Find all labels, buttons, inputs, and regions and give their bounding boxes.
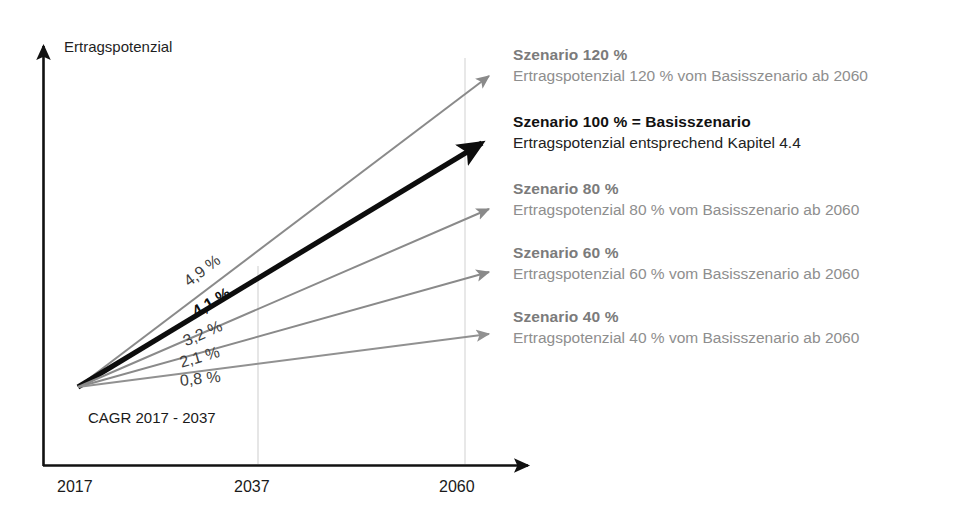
legend-entry-szenario-60: Szenario 60 % Ertragspotenzial 60 % vom … [513, 243, 859, 284]
y-axis-label: Ertragspotenzial [64, 38, 172, 55]
legend-desc-szenario-60: Ertragspotenzial 60 % vom Basisszenario … [513, 263, 859, 284]
legend-title-szenario-80: Szenario 80 % [513, 179, 859, 199]
legend-title-szenario-60: Szenario 60 % [513, 243, 859, 263]
x-tick-2017: 2017 [57, 478, 93, 496]
x-tick-2037: 2037 [234, 478, 270, 496]
arrow-szenario-100-basis [78, 143, 482, 387]
legend-entry-szenario-120: Szenario 120 % Ertragspotenzial 120 % vo… [513, 45, 868, 86]
legend-desc-szenario-120: Ertragspotenzial 120 % vom Basisszenario… [513, 65, 868, 86]
legend-desc-szenario-100: Ertragspotenzial entsprechend Kapitel 4.… [513, 132, 801, 153]
legend-title-szenario-120: Szenario 120 % [513, 45, 868, 65]
legend-entry-szenario-40: Szenario 40 % Ertragspotenzial 40 % vom … [513, 307, 859, 348]
legend-desc-szenario-40: Ertragspotenzial 40 % vom Basisszenario … [513, 327, 859, 348]
axes [43, 46, 528, 466]
x-tick-2060: 2060 [439, 478, 475, 496]
legend-title-szenario-100: Szenario 100 % = Basisszenario [513, 112, 801, 132]
legend-title-szenario-40: Szenario 40 % [513, 307, 859, 327]
scenario-arrows [78, 76, 489, 387]
arrow-szenario-60 [78, 272, 489, 387]
legend-entry-szenario-80: Szenario 80 % Ertragspotenzial 80 % vom … [513, 179, 859, 220]
arrow-szenario-120 [78, 76, 489, 387]
legend-desc-szenario-80: Ertragspotenzial 80 % vom Basisszenario … [513, 199, 859, 220]
scenario-fan-chart: Ertragspotenzial 2017 2037 2060 CAGR 201… [0, 0, 961, 530]
cagr-caption: CAGR 2017 - 2037 [88, 409, 216, 426]
legend-entry-szenario-100: Szenario 100 % = Basisszenario Ertragspo… [513, 112, 801, 153]
